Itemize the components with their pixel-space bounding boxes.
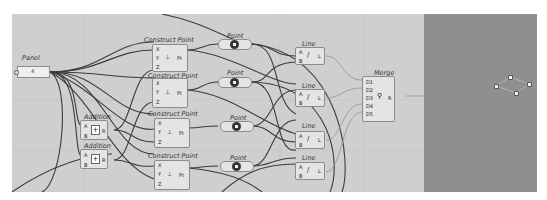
port-pt[interactable]: Pt	[177, 55, 182, 61]
construct-point-title: Construct Point	[148, 110, 198, 118]
line-icon: /	[307, 51, 309, 59]
port-d5[interactable]: D5	[366, 111, 373, 117]
port-b[interactable]: B	[299, 173, 302, 179]
point-title: Point	[227, 69, 243, 77]
port-pt[interactable]: Pt	[177, 90, 182, 96]
panel-input-grip[interactable]	[14, 70, 19, 75]
point-icon	[232, 162, 241, 171]
port-b[interactable]: B	[299, 58, 302, 64]
port-x[interactable]: X	[158, 162, 161, 168]
port-b[interactable]: B	[84, 162, 87, 168]
construct-point-title: Construct Point	[144, 36, 194, 44]
xyz-point-icon: ⊥	[167, 170, 172, 177]
point-icon	[232, 122, 241, 131]
port-z[interactable]: Z	[156, 99, 159, 105]
grasshopper-canvas[interactable]: Panel 4 Construct Point X Y Z ⊥ Pt Const…	[12, 14, 424, 192]
plus-icon: +	[91, 125, 100, 135]
port-b[interactable]: B	[299, 100, 302, 106]
point-icon	[230, 78, 239, 87]
line-icon: /	[307, 135, 309, 143]
port-l[interactable]: L	[318, 168, 321, 174]
port-y[interactable]: Y	[158, 129, 161, 135]
viewport-lines	[424, 14, 537, 192]
line-icon: /	[307, 93, 309, 101]
port-d3[interactable]: D3	[366, 95, 373, 101]
port-y[interactable]: Y	[158, 171, 161, 177]
port-y[interactable]: Y	[156, 55, 159, 61]
port-a[interactable]: A	[299, 164, 302, 170]
port-d1[interactable]: D1	[366, 79, 373, 85]
plus-icon: +	[91, 154, 100, 164]
line-title: Line	[302, 122, 316, 130]
port-z[interactable]: Z	[156, 64, 159, 70]
panel-value[interactable]: 4	[31, 68, 34, 74]
merge-icon: ⚲	[377, 92, 382, 100]
xyz-point-icon: ⊥	[165, 53, 170, 60]
port-z[interactable]: Z	[158, 181, 161, 187]
port-l[interactable]: L	[318, 53, 321, 59]
port-b[interactable]: B	[299, 142, 302, 148]
port-pt[interactable]: Pt	[179, 172, 184, 178]
port-x[interactable]: X	[156, 80, 159, 86]
port-l[interactable]: L	[318, 137, 321, 143]
port-d2[interactable]: D2	[366, 87, 373, 93]
rhino-viewport[interactable]	[424, 14, 537, 192]
xyz-point-icon: ⊥	[165, 88, 170, 95]
port-a[interactable]: A	[84, 152, 87, 158]
xyz-point-icon: ⊥	[167, 128, 172, 135]
port-a[interactable]: A	[299, 49, 302, 55]
port-pt[interactable]: Pt	[179, 130, 184, 136]
line-icon: /	[307, 166, 309, 174]
viewport-point[interactable]	[527, 82, 532, 87]
port-l[interactable]: L	[318, 95, 321, 101]
port-b[interactable]: B	[84, 133, 87, 139]
port-x[interactable]: X	[156, 46, 159, 52]
port-r[interactable]: R	[102, 157, 105, 163]
port-z[interactable]: Z	[158, 139, 161, 145]
point-icon	[230, 40, 239, 49]
viewport-point[interactable]	[514, 91, 519, 96]
port-a[interactable]: A	[299, 133, 302, 139]
port-x[interactable]: X	[158, 120, 161, 126]
construct-point-title: Construct Point	[148, 152, 198, 160]
port-a[interactable]: A	[299, 91, 302, 97]
port-a[interactable]: A	[84, 123, 87, 129]
line-title: Line	[302, 154, 316, 162]
viewport-point[interactable]	[494, 84, 499, 89]
port-r[interactable]: R	[388, 95, 391, 101]
viewport-point[interactable]	[508, 75, 513, 80]
panel-title: Panel	[22, 54, 40, 62]
port-d4[interactable]: D4	[366, 103, 373, 109]
port-y[interactable]: Y	[156, 89, 159, 95]
port-r[interactable]: R	[102, 128, 105, 134]
